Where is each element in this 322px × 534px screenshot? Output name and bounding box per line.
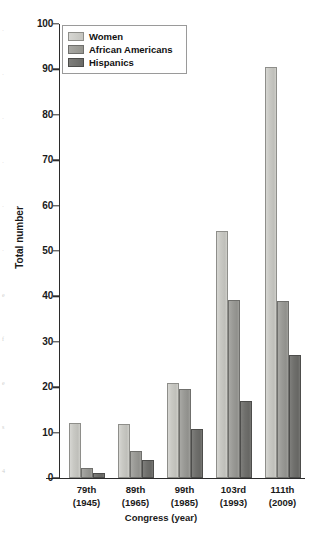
y-tick-label-40: 40 [11,291,53,301]
chart-legend: WomenAfrican AmericansHispanics [62,25,187,74]
y-tick-mark-80 [53,114,59,115]
bar-african-americans-99th [179,389,191,478]
y-tick-label-0: 0 [11,473,53,483]
bar-group-99th [167,24,203,478]
y-tick-label-70: 70 [11,155,53,165]
legend-item-african-americans: African Americans [68,43,181,56]
x-axis-line [46,478,305,479]
bar-group-111th [265,24,301,478]
y-tick-mark-90 [53,69,59,70]
bar-african-americans-89th [130,451,142,478]
y-tick-mark-10 [53,432,59,433]
bar-women-111th [265,67,277,478]
bar-african-americans-79th [81,468,93,478]
y-tick-mark-70 [53,159,59,160]
bar-hispanics-79th [93,473,105,478]
legend-swatch-african [68,45,84,54]
x-label-congress: 79th [77,484,97,495]
x-label-year: (2009) [253,497,313,510]
bar-hispanics-99th [191,429,203,478]
legend-swatch-hispanic [68,58,84,67]
legend-swatch-women [68,32,84,41]
legend-item-hispanics: Hispanics [68,56,181,69]
bar-chart: 1009080706050403020100 Total number 79th… [0,0,322,534]
bar-group-89th [118,24,154,478]
legend-label: Women [89,31,123,42]
bar-hispanics-103rd [240,401,252,478]
bar-women-89th [118,424,130,478]
legend-label: African Americans [89,44,173,55]
y-tick-mark-60 [53,205,59,206]
y-axis-title: Total number [14,193,25,283]
x-label-congress: 89th [126,484,146,495]
x-label-congress: 99th [175,484,195,495]
plot-area [60,24,305,478]
legend-item-women: Women [68,30,181,43]
bar-hispanics-89th [142,460,154,478]
bar-women-99th [167,383,179,478]
y-tick-label-90: 90 [11,64,53,74]
x-label-congress: 103rd [221,484,246,495]
bar-group-103rd [216,24,252,478]
y-tick-mark-40 [53,296,59,297]
y-tick-label-30: 30 [11,337,53,347]
y-tick-label-10: 10 [11,428,53,438]
y-tick-mark-50 [53,250,59,251]
bar-african-americans-111th [277,301,289,478]
y-tick-mark-30 [53,341,59,342]
legend-label: Hispanics [89,57,134,68]
bar-women-79th [69,423,81,478]
y-tick-label-80: 80 [11,110,53,120]
x-label-congress: 111th [271,484,295,495]
bar-african-americans-103rd [228,300,240,478]
y-tick-mark-20 [53,386,59,387]
y-tick-mark-100 [53,23,59,24]
y-tick-mark-0 [53,477,59,478]
y-tick-label-20: 20 [11,382,53,392]
y-tick-label-100: 100 [11,19,53,29]
bar-women-103rd [216,231,228,478]
bar-hispanics-111th [289,355,301,478]
x-tick-label-111th: 111th(2009) [253,484,313,509]
x-axis-title: Congress (year) [0,512,322,523]
y-axis-ticks: 1009080706050403020100 [0,0,53,534]
bar-group-79th [69,24,105,478]
